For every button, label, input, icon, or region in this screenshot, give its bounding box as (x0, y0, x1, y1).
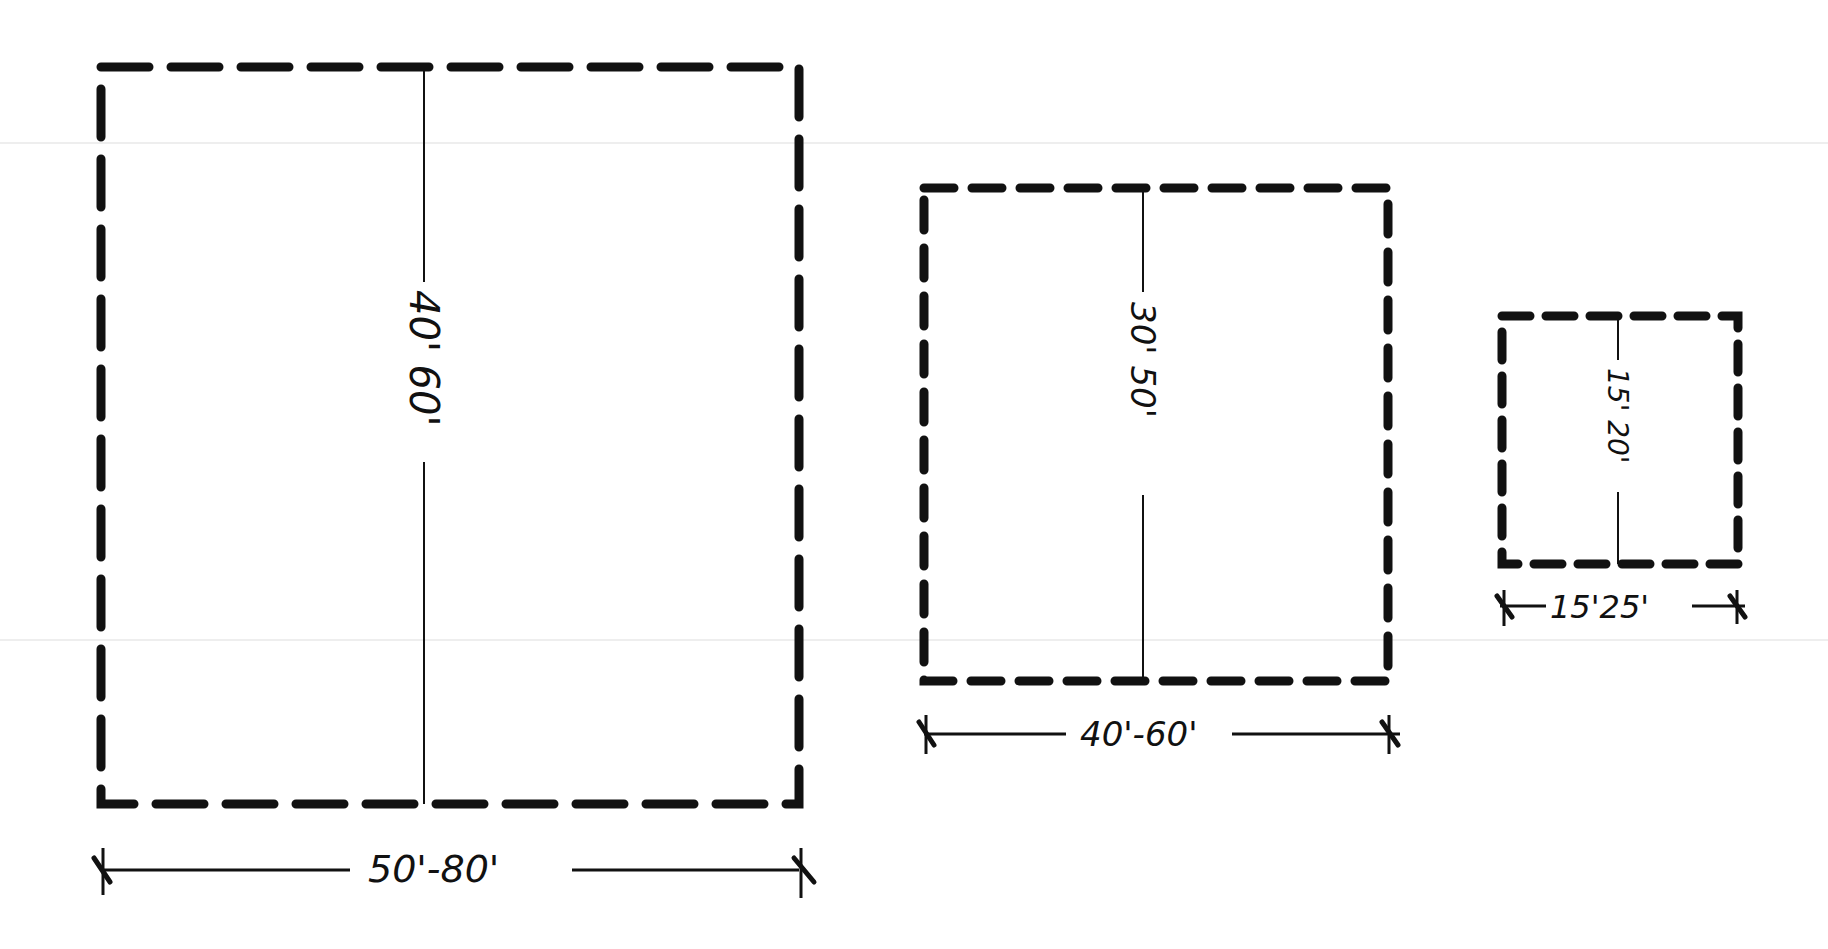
large-width-label: 50'-80' (368, 847, 499, 891)
medium-building-footprint: 30' 50' 40'-60' (919, 188, 1400, 754)
small-width-label: 15'25' (1550, 588, 1649, 626)
medium-box-outline (924, 188, 1388, 681)
site-size-diagram: 40' 60' 50'-80' 30' 50' 40'-60' 15' 20' (0, 0, 1828, 949)
large-box-outline (101, 67, 799, 804)
small-depth-label: 15' 20' (1601, 368, 1634, 464)
medium-width-label: 40'-60' (1080, 714, 1198, 754)
medium-depth-label: 30' 50' (1123, 302, 1163, 418)
large-depth-label: 40' 60' (401, 290, 447, 427)
small-building-footprint: 15' 20' 15'25' (1497, 316, 1745, 626)
large-building-footprint: 40' 60' 50'-80' (94, 67, 814, 898)
